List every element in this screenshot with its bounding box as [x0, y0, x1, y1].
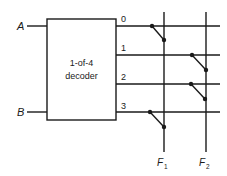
svg-text:F: F: [199, 157, 206, 168]
output-label-0: 0: [121, 14, 126, 24]
output-label-3: 3: [121, 101, 126, 111]
output-label-2: 2: [121, 72, 126, 82]
svg-text:2: 2: [206, 163, 210, 170]
decoder-box: [47, 19, 116, 120]
switch-1-f2: [192, 55, 206, 70]
switch-0-f1: [152, 26, 164, 40]
junction-dot: [204, 68, 208, 72]
junction-dot: [148, 110, 152, 114]
decoder-circuit-diagram: A B 1-of-4 decoder 0 1 2 3 F 1 F 2: [0, 0, 227, 176]
switch-2-f2: [191, 84, 205, 99]
decoder-title-line2: decoder: [65, 71, 98, 81]
junction-dot: [162, 38, 166, 42]
f1-label: F 1: [157, 157, 168, 170]
switch-3-f1: [150, 112, 164, 127]
junction-dot: [150, 24, 154, 28]
junction-dot: [203, 97, 207, 101]
output-label-1: 1: [121, 43, 126, 53]
svg-text:F: F: [157, 157, 164, 168]
decoder-title-line1: 1-of-4: [70, 58, 94, 68]
input-label-b: B: [17, 106, 24, 118]
junction-dot: [190, 53, 194, 57]
svg-text:1: 1: [164, 163, 168, 170]
f2-label: F 2: [199, 157, 210, 170]
junction-dot: [189, 82, 193, 86]
junction-dot: [162, 125, 166, 129]
input-label-a: A: [16, 20, 24, 32]
